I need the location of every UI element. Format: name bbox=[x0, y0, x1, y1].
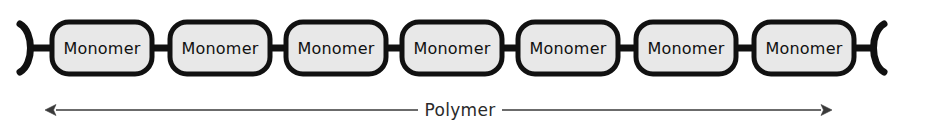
monomer-label: Monomer bbox=[64, 39, 141, 58]
monomer-label: Monomer bbox=[648, 39, 725, 58]
monomer-unit: Monomer bbox=[754, 22, 854, 74]
polymer-diagram: MonomerMonomerMonomerMonomerMonomerMonom… bbox=[0, 0, 947, 129]
monomer-unit: Monomer bbox=[636, 22, 736, 74]
polymer-span-annotation: Polymer bbox=[45, 100, 832, 120]
monomer-label: Monomer bbox=[182, 39, 259, 58]
polymer-chain-graphic: MonomerMonomerMonomerMonomerMonomerMonom… bbox=[0, 0, 947, 129]
polymer-arrow-right-head-icon bbox=[821, 105, 832, 116]
right-end-bracket-icon bbox=[874, 24, 885, 72]
monomer-unit: Monomer bbox=[402, 22, 502, 74]
monomer-unit: Monomer bbox=[52, 22, 152, 74]
monomer-unit: Monomer bbox=[518, 22, 618, 74]
polymer-arrow-left-head-icon bbox=[45, 105, 56, 116]
monomer-unit: Monomer bbox=[286, 22, 386, 74]
monomer-label: Monomer bbox=[530, 39, 607, 58]
monomer-unit: Monomer bbox=[170, 22, 270, 74]
monomer-label: Monomer bbox=[298, 39, 375, 58]
polymer-label: Polymer bbox=[425, 100, 496, 120]
monomer-label: Monomer bbox=[766, 39, 843, 58]
monomer-units: MonomerMonomerMonomerMonomerMonomerMonom… bbox=[52, 22, 854, 74]
left-end-bracket-icon bbox=[20, 24, 31, 72]
monomer-label: Monomer bbox=[414, 39, 491, 58]
